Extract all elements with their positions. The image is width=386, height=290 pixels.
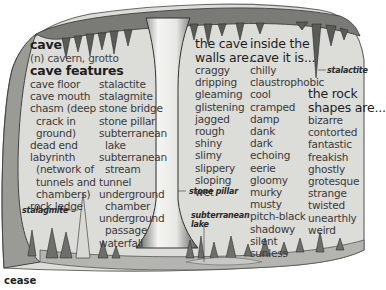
list-item: chilly <box>250 64 324 76</box>
list-item: chambers) <box>30 188 96 200</box>
list-item: grotesque <box>308 175 386 187</box>
list-item: dead end <box>30 139 96 151</box>
lake-label: subterranean lake <box>191 211 250 229</box>
list-item: stalactite <box>99 78 167 90</box>
list-item: labyrinth <box>30 151 96 163</box>
list-item: stream <box>99 163 167 175</box>
entry-title: cave <box>30 38 119 52</box>
features-col2: stalactite stalagmite stone bridge stone… <box>99 78 167 249</box>
list-item: sunless <box>250 247 324 259</box>
entry-definition: (n) cavern, grotto <box>30 52 119 64</box>
next-entry-word: cease <box>4 275 36 286</box>
list-item: subterranean <box>99 151 167 163</box>
list-item: underground <box>99 212 167 224</box>
list-item: stalagmite <box>99 90 167 102</box>
stone-pillar-label: stone pillar <box>189 187 238 196</box>
list-item: subterranean <box>99 127 167 139</box>
list-item: waterfall <box>99 237 167 249</box>
list-item: weird <box>308 224 386 236</box>
list-item: stone pillar <box>99 115 167 127</box>
cave-entry: cave (n) cavern, grotto <box>30 38 119 64</box>
rocks-heading: the rock <box>308 87 386 101</box>
list-item: unearthly <box>308 212 386 224</box>
list-item: contorted <box>308 126 386 138</box>
list-item: cave mouth <box>30 90 96 102</box>
list-item: stone bridge <box>99 102 167 114</box>
list-item: underground <box>99 188 167 200</box>
rocks-section: the rock shapes are... bizarre contorted… <box>308 87 386 236</box>
list-item: cave floor <box>30 78 96 90</box>
list-item: tunnels and <box>30 176 96 188</box>
stalagmite-label: stalagmite <box>22 206 68 215</box>
list-item: passage <box>99 224 167 236</box>
list-item: silent <box>250 235 324 247</box>
features-heading: cave features <box>30 64 124 78</box>
list-item: ground) <box>30 127 96 139</box>
inside-heading: inside the <box>250 37 324 51</box>
list-item: strange <box>308 187 386 199</box>
list-item: (network of <box>30 163 96 175</box>
list-item: lake <box>99 139 167 151</box>
features-col1: cave floor cave mouth chasm (deep crack … <box>30 78 96 212</box>
list-item: tunnel <box>99 176 167 188</box>
list-item: fantastic <box>308 138 386 150</box>
list-item: crack in <box>30 115 96 127</box>
rocks-heading: shapes are... <box>308 101 386 115</box>
list-item: chasm (deep <box>30 102 96 114</box>
list-item: ghostly <box>308 163 386 175</box>
list-item: chamber <box>99 200 167 212</box>
inside-heading: cave it is... <box>250 51 324 65</box>
list-item: twisted <box>308 199 386 211</box>
list-item: freakish <box>308 151 386 163</box>
list-item: bizarre <box>308 114 386 126</box>
stalactite-label: stalactite <box>327 66 368 75</box>
